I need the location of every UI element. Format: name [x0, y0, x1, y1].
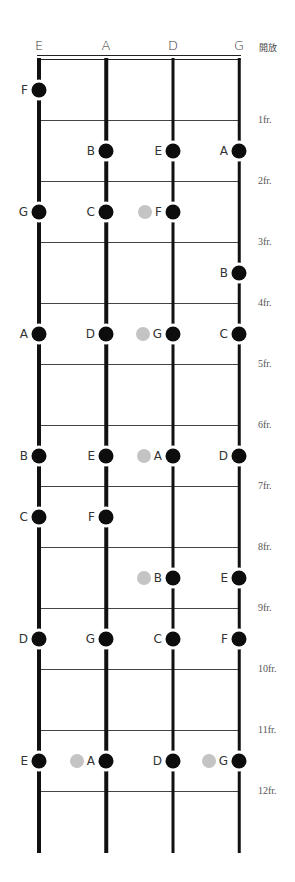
ghost-dot: [70, 754, 84, 768]
open-string-label: 開放: [259, 41, 277, 54]
ghost-dot: [202, 754, 216, 768]
note-label: F: [155, 206, 166, 218]
note-label: G: [219, 755, 232, 767]
fret-number-label: 4fr.: [258, 297, 272, 308]
note-label: G: [19, 206, 32, 218]
fret-line: [39, 608, 239, 609]
note-dot: [166, 326, 181, 341]
fret-line: [39, 486, 239, 487]
fret-line: [39, 242, 239, 243]
fret-line: [39, 730, 239, 731]
note-label: B: [87, 145, 99, 157]
fret-line: [39, 181, 239, 182]
note-dot: [32, 82, 47, 97]
note-dot: [99, 143, 114, 158]
note-label: E: [87, 450, 99, 462]
note-label: D: [219, 450, 232, 462]
note-dot: [99, 448, 114, 463]
note-label: E: [20, 755, 32, 767]
fret-number-label: 3fr.: [258, 236, 272, 247]
note-dot: [99, 631, 114, 646]
note-dot: [232, 631, 247, 646]
note-dot: [99, 753, 114, 768]
note-label: F: [221, 633, 232, 645]
note-dot: [232, 570, 247, 585]
note-dot: [166, 570, 181, 585]
note-dot: [166, 631, 181, 646]
note-label: E: [220, 572, 232, 584]
fret-number-label: 1fr.: [258, 114, 272, 125]
note-label: B: [154, 572, 166, 584]
note-dot: [232, 326, 247, 341]
note-label: A: [87, 755, 99, 767]
note-dot: [32, 631, 47, 646]
note-dot: [99, 509, 114, 524]
note-label: D: [19, 633, 32, 645]
note-dot: [232, 265, 247, 280]
note-dot: [166, 448, 181, 463]
note-dot: [32, 753, 47, 768]
fret-number-label: 8fr.: [258, 541, 272, 552]
fret-line: [39, 547, 239, 548]
fret-line: [39, 364, 239, 365]
note-label: A: [220, 145, 232, 157]
string-name-g: G: [234, 38, 244, 53]
note-dot: [32, 509, 47, 524]
fret-number-label: 10fr.: [258, 663, 277, 674]
bass-fretboard-diagram: E A D G 開放 1fr.2fr.3fr.4fr.5fr.6fr.7fr.8…: [0, 0, 295, 882]
note-dot: [32, 448, 47, 463]
note-label: A: [154, 450, 166, 462]
ghost-dot: [138, 205, 152, 219]
fret-number-label: 12fr.: [258, 785, 277, 796]
fret-line: [39, 669, 239, 670]
note-label: D: [153, 755, 166, 767]
note-dot: [166, 753, 181, 768]
fret-number-label: 7fr.: [258, 480, 272, 491]
note-label: F: [88, 511, 99, 523]
string-name-a: A: [102, 38, 111, 53]
note-label: C: [87, 206, 99, 218]
note-dot: [232, 143, 247, 158]
note-label: B: [220, 267, 232, 279]
note-label: C: [220, 328, 232, 340]
string-name-e: E: [35, 38, 43, 53]
note-dot: [99, 326, 114, 341]
note-label: F: [21, 84, 32, 96]
note-label: E: [154, 145, 166, 157]
note-label: G: [86, 633, 99, 645]
ghost-dot: [136, 327, 150, 341]
note-dot: [99, 204, 114, 219]
note-dot: [232, 753, 247, 768]
note-label: A: [20, 328, 32, 340]
ghost-dot: [137, 449, 151, 463]
fret-line: [39, 425, 239, 426]
nut: [37, 55, 241, 60]
note-dot: [32, 204, 47, 219]
fret-number-label: 11fr.: [258, 724, 276, 735]
fret-number-label: 2fr.: [258, 175, 272, 186]
note-label: D: [86, 328, 99, 340]
ghost-dot: [137, 571, 151, 585]
note-label: C: [20, 511, 32, 523]
fret-line: [39, 303, 239, 304]
note-dot: [232, 448, 247, 463]
fret-line: [39, 791, 239, 792]
note-label: G: [153, 328, 166, 340]
note-dot: [166, 143, 181, 158]
note-dot: [166, 204, 181, 219]
fret-line: [39, 120, 239, 121]
note-label: C: [154, 633, 166, 645]
note-dot: [32, 326, 47, 341]
fret-number-label: 6fr.: [258, 419, 272, 430]
string-name-d: D: [168, 38, 178, 53]
fret-number-label: 9fr.: [258, 602, 272, 613]
note-label: B: [20, 450, 32, 462]
fret-number-label: 5fr.: [258, 358, 272, 369]
